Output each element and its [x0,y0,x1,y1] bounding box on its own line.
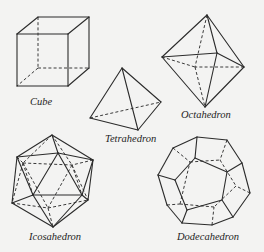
icosahedron-hidden-edge [12,203,48,208]
icosahedron-edge [82,195,88,200]
dodecahedron-edge [175,180,187,210]
icosahedron-hidden-edge [72,160,93,165]
tetrahedron-label: Tetrahedron [105,134,156,145]
icosahedron-edge [12,157,17,203]
dodecahedron-edge [222,200,233,217]
icosahedron-hidden-edge [23,135,52,163]
dodecahedron-hidden-edge [190,160,220,162]
tetrahedron-edge [122,68,138,130]
dodecahedron-edge [182,210,187,223]
tetrahedron-edge [90,118,138,130]
dodecahedron-label: Dodecahedron [177,232,239,243]
icosahedron-edge [88,160,93,200]
dodecahedron-edge [167,205,182,223]
octahedron-edge [162,57,205,107]
dodecahedron-hidden-edge [220,140,227,160]
tetrahedron-edge [122,68,161,102]
tetrahedron-edge [90,68,122,118]
octahedron-edge [207,15,217,53]
dodecahedron-edge [195,137,197,158]
dodecahedron-edge [173,137,197,148]
icosahedron-hidden-edge [23,163,48,208]
dodecahedron-hidden-edge [167,204,180,205]
octahedron-edge [162,53,217,57]
octahedron-edge [217,53,244,67]
icosahedron-label: Icosahedron [29,232,81,243]
icosahedron-edge [53,200,88,227]
dodecahedron-edge [175,158,195,180]
octahedron-edge [205,67,244,107]
cube-drawing [17,17,89,86]
octahedron-drawing [162,15,244,107]
octahedron-edge [162,15,207,57]
cube-edge [17,17,38,34]
cube-label: Cube [30,97,52,108]
dodecahedron-edge [197,137,227,140]
icosahedron-edge [53,195,82,227]
icosahedron-drawing [12,135,93,227]
icosahedron-edge [33,153,58,195]
octahedron-label: Octahedron [181,110,231,121]
dodecahedron-edge [242,163,250,193]
dodecahedron-edge [158,175,175,180]
dodecahedron-edge [182,223,212,225]
cube-hidden-edge [17,68,38,86]
dodecahedron-drawing [158,137,250,225]
dodecahedron-hidden-edge [173,148,190,162]
octahedron-edge [205,53,217,107]
dodecahedron-hidden-edge [220,160,236,186]
dodecahedron-edge [158,175,167,205]
octahedron-edge [207,15,244,67]
octahedron-hidden-edge [195,15,207,67]
dodecahedron-hidden-edge [212,207,214,225]
dodecahedron-edge [227,163,242,172]
dodecahedron-edge [222,172,227,200]
cube-edge [68,17,89,34]
polyhedra-diagram [0,0,264,252]
dodecahedron-edge [233,193,250,217]
dodecahedron-edge [158,148,173,175]
icosahedron-edge [58,153,82,195]
dodecahedron-edge [227,140,242,163]
cube-edge [68,68,89,86]
dodecahedron-edge [212,217,233,225]
icosahedron-edge [12,195,33,203]
tetrahedron-drawing [90,68,161,130]
